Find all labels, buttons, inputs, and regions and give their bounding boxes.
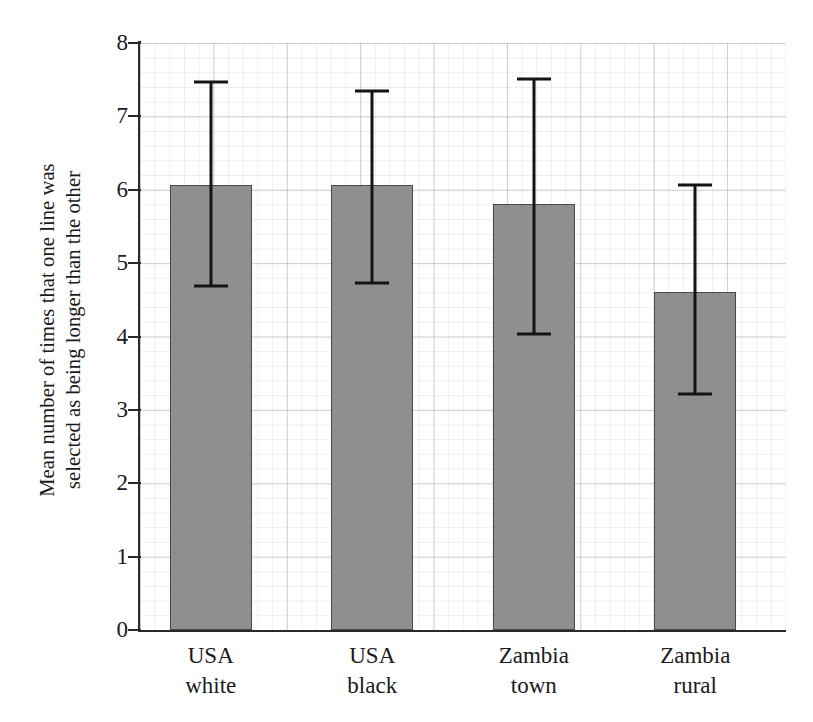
x-category-label-3: Zambiarural bbox=[660, 641, 730, 701]
error-bar-cap-lower-1 bbox=[355, 281, 389, 284]
x-category-label-line-2: town bbox=[499, 671, 569, 701]
x-category-label-0: USAwhite bbox=[185, 641, 236, 701]
y-tick-label-2: 2 bbox=[117, 470, 129, 496]
error-bar-cap-lower-0 bbox=[194, 284, 228, 287]
y-axis-tick-labels: 012345678 bbox=[96, 0, 134, 722]
x-category-label-line-2: rural bbox=[660, 671, 730, 701]
y-tick-label-6: 6 bbox=[117, 177, 129, 203]
y-tick-mark-2 bbox=[128, 482, 141, 484]
error-bar-line-0 bbox=[209, 82, 212, 286]
x-category-label-1: USAblack bbox=[347, 641, 397, 701]
x-category-label-line-2: black bbox=[347, 671, 397, 701]
y-axis-title-line-1: Mean number of times that one line was bbox=[34, 163, 60, 496]
error-bar-cap-upper-1 bbox=[355, 89, 389, 92]
y-axis-title-line-2: selected as being longer than the other bbox=[60, 171, 86, 489]
x-category-label-2: Zambiatown bbox=[499, 641, 569, 701]
error-bar-cap-upper-2 bbox=[517, 77, 551, 80]
y-tick-label-3: 3 bbox=[117, 397, 129, 423]
y-axis-title: Mean number of times that one line was s… bbox=[0, 0, 96, 660]
y-tick-mark-7 bbox=[128, 115, 141, 117]
chart-figure: Mean number of times that one line was s… bbox=[0, 0, 813, 722]
error-bar-cap-lower-3 bbox=[678, 393, 712, 396]
y-tick-label-5: 5 bbox=[117, 250, 129, 276]
y-tick-mark-8 bbox=[128, 42, 141, 44]
y-tick-mark-4 bbox=[128, 336, 141, 338]
y-tick-label-8: 8 bbox=[117, 30, 129, 56]
y-tick-mark-6 bbox=[128, 189, 141, 191]
y-tick-label-7: 7 bbox=[117, 103, 129, 129]
error-bar-cap-lower-2 bbox=[517, 332, 551, 335]
y-tick-label-0: 0 bbox=[117, 617, 129, 643]
x-category-label-line-2: white bbox=[185, 671, 236, 701]
error-bar-cap-upper-0 bbox=[194, 80, 228, 83]
y-tick-mark-0 bbox=[128, 629, 141, 631]
error-bar-line-2 bbox=[532, 79, 535, 334]
error-bar-line-3 bbox=[694, 185, 697, 395]
x-category-label-line-1: Zambia bbox=[499, 643, 569, 668]
x-category-label-line-1: Zambia bbox=[660, 643, 730, 668]
y-tick-label-1: 1 bbox=[117, 544, 129, 570]
y-tick-mark-3 bbox=[128, 409, 141, 411]
error-bar-line-1 bbox=[371, 91, 374, 283]
y-tick-mark-5 bbox=[128, 262, 141, 264]
error-bar-cap-upper-3 bbox=[678, 183, 712, 186]
y-tick-mark-1 bbox=[128, 556, 141, 558]
y-tick-label-4: 4 bbox=[117, 324, 129, 350]
x-category-label-line-1: USA bbox=[349, 643, 395, 668]
x-category-label-line-1: USA bbox=[188, 643, 234, 668]
